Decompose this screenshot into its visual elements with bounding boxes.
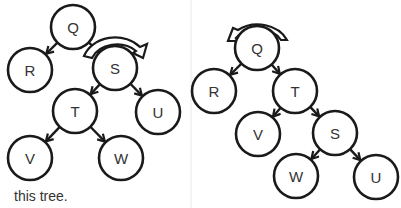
node-before-rotation-S: S: [93, 46, 137, 90]
edge-after-rotation-S-W: [311, 149, 320, 159]
node-after-rotation-S: S: [313, 111, 357, 155]
node-label: U: [371, 169, 382, 186]
edge-after-rotation-Q-T: [272, 64, 280, 73]
node-label: T: [290, 83, 299, 100]
node-label: W: [114, 150, 129, 167]
node-label: W: [289, 168, 304, 185]
node-after-rotation-V: V: [236, 112, 280, 156]
node-after-rotation-T: T: [273, 69, 317, 113]
node-after-rotation-R: R: [192, 69, 236, 113]
node-label: R: [209, 83, 220, 100]
edge-after-rotation-Q-R: [230, 64, 241, 75]
node-after-rotation-W: W: [274, 154, 318, 198]
caption-text: this tree.: [14, 188, 68, 204]
edge-before-rotation-Q-R: [46, 43, 57, 54]
edge-after-rotation-T-V: [273, 108, 281, 117]
node-before-rotation-U: U: [136, 90, 180, 134]
node-after-rotation-U: U: [354, 155, 398, 199]
node-before-rotation-Q: Q: [51, 5, 95, 49]
edge-before-rotation-T-V: [46, 127, 60, 141]
node-label: U: [153, 104, 164, 121]
node-before-rotation-T: T: [53, 89, 97, 133]
node-before-rotation-W: W: [99, 136, 143, 180]
node-label: T: [70, 103, 79, 120]
edge-after-rotation-T-S: [310, 107, 319, 116]
edge-before-rotation-T-W: [90, 127, 105, 142]
edge-before-rotation-S-T: [91, 84, 100, 94]
node-before-rotation-V: V: [8, 136, 52, 180]
node-label: V: [25, 150, 35, 167]
node-label: S: [330, 125, 340, 142]
node-label: V: [253, 126, 263, 143]
node-label: S: [110, 60, 120, 77]
tree-rotation-diagram: QRSTUVWQRTVSWU: [0, 0, 401, 208]
node-label: Q: [251, 40, 263, 57]
node-label: Q: [67, 19, 79, 36]
node-label: R: [25, 62, 36, 79]
edge-before-rotation-S-U: [130, 84, 142, 96]
node-before-rotation-R: R: [8, 48, 52, 92]
edge-after-rotation-S-U: [350, 149, 360, 160]
node-after-rotation-Q: Q: [235, 26, 279, 70]
nodes: QRSTUVWQRTVSWU: [8, 5, 398, 199]
